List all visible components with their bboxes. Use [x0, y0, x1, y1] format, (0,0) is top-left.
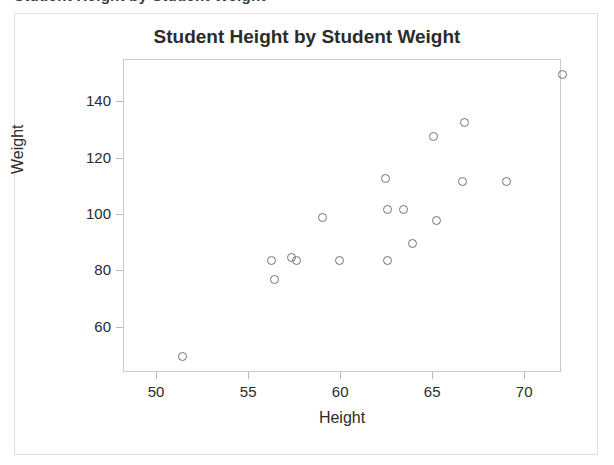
x-axis-title: Height [123, 409, 561, 427]
x-axis-tick [432, 372, 433, 379]
scatter-point [178, 352, 187, 361]
scatter-point [408, 239, 417, 248]
y-axis-tick-label: 80 [51, 261, 111, 278]
scatter-point [399, 205, 408, 214]
scatter-point [381, 174, 390, 183]
cropped-title-strip: Student Height by Student Weight [0, 0, 614, 12]
y-axis-tick [116, 214, 123, 215]
scatter-point [558, 70, 567, 79]
y-axis-tick-label: 140 [51, 92, 111, 109]
scatter-point [383, 205, 392, 214]
x-axis-tick [156, 372, 157, 379]
scatter-point [429, 132, 438, 141]
scatter-point [383, 256, 392, 265]
x-axis-tick-label: 55 [218, 383, 278, 400]
chart-figure: Student Height by Student Weight Weight … [14, 13, 598, 455]
scatter-point [458, 177, 467, 186]
scatter-points-layer [124, 60, 562, 373]
scatter-point [318, 213, 327, 222]
scatter-point [267, 256, 276, 265]
x-axis-tick-label: 60 [310, 383, 370, 400]
x-axis-tick [524, 372, 525, 379]
x-axis-tick-label: 65 [402, 383, 462, 400]
x-axis-tick [340, 372, 341, 379]
scatter-point [460, 118, 469, 127]
y-axis-tick [116, 101, 123, 102]
scatter-point [292, 256, 301, 265]
scatter-point [502, 177, 511, 186]
y-axis-tick-label: 100 [51, 205, 111, 222]
x-axis-tick [248, 372, 249, 379]
y-axis-tick [116, 327, 123, 328]
y-axis-tick-label: 120 [51, 149, 111, 166]
y-axis-tick-labels [15, 14, 81, 456]
scatter-point [335, 256, 344, 265]
x-axis-tick-label: 70 [494, 383, 554, 400]
y-axis-tick [116, 270, 123, 271]
cropped-title-text: Student Height by Student Weight [14, 0, 266, 4]
scatter-point [432, 216, 441, 225]
x-axis-tick-label: 50 [126, 383, 186, 400]
chart-title: Student Height by Student Weight [15, 26, 599, 48]
y-axis-tick-label: 60 [51, 318, 111, 335]
y-axis-tick [116, 158, 123, 159]
plot-area [123, 59, 561, 372]
scatter-point [270, 275, 279, 284]
